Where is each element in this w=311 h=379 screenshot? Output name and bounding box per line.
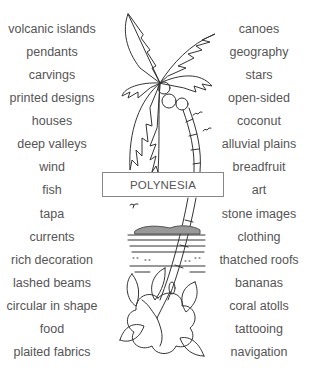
word-item: deep valleys: [0, 135, 104, 158]
word-item: carvings: [0, 66, 104, 89]
word-item: rich decoration: [0, 251, 104, 274]
palm-frond-icon: [122, 14, 215, 172]
bird-icon: [193, 112, 202, 115]
word-item: printed designs: [0, 89, 104, 112]
palm-trunk-icon: [160, 108, 200, 300]
hibiscus-flower-icon: [120, 268, 204, 356]
word-item: wind: [0, 158, 104, 181]
word-item: houses: [0, 112, 104, 135]
left-word-column: volcanic islands pendants carvings print…: [0, 20, 104, 366]
word-item: currents: [0, 228, 104, 251]
island-waves-icon: [128, 226, 205, 272]
word-item: fish: [0, 181, 104, 204]
word-item: pendants: [0, 43, 104, 66]
polynesia-title-box: POLYNESIA: [102, 172, 224, 197]
word-item: lashed beams: [0, 274, 104, 297]
word-item: volcanic islands: [0, 20, 104, 43]
bird-icon: [130, 204, 138, 208]
word-item: food: [0, 320, 104, 343]
bird-icon: [203, 128, 211, 131]
word-item: circular in shape: [0, 297, 104, 320]
word-item: tapa: [0, 205, 104, 228]
word-item: plaited fabrics: [0, 343, 104, 366]
